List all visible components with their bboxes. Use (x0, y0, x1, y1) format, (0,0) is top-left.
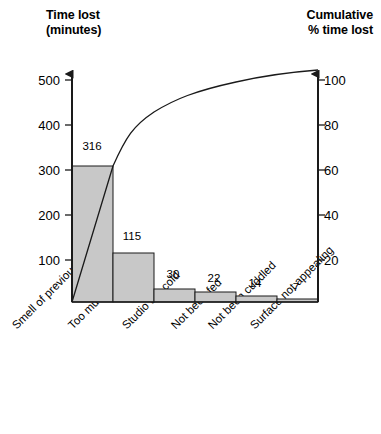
pareto-chart: Time lost (minutes) Cumulative % time lo… (0, 0, 381, 434)
chart-plot-area (0, 0, 381, 434)
bar-1 (113, 253, 154, 302)
bars-group (72, 166, 318, 302)
bar-4 (236, 296, 277, 302)
left-axis-ticks (65, 80, 72, 260)
bar-2 (154, 289, 195, 302)
bar-3 (195, 292, 236, 302)
right-axis-ticks (318, 80, 325, 260)
